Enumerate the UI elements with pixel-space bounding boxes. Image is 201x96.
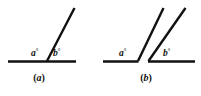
panel-a-label-b: b°	[53, 47, 61, 58]
panel-a-caption-close: )	[42, 72, 45, 84]
panel-b-ray-left	[138, 8, 164, 61]
panel-b: a° b° (b)	[103, 8, 195, 84]
panel-a: a° b° (a)	[8, 8, 76, 84]
panel-a-caption: (a)	[33, 72, 45, 84]
panel-a-label-b-degree: °	[58, 47, 61, 54]
panel-b-caption-close: )	[149, 72, 152, 84]
geometry-figure: a° b° (a) a° b° (b)	[0, 0, 201, 96]
panel-b-label-b: b°	[163, 47, 171, 58]
panel-a-label-a: a°	[31, 47, 39, 58]
panel-a-ray	[47, 8, 75, 61]
figure-canvas: a° b° (a) a° b° (b)	[0, 0, 201, 96]
panel-b-label-b-degree: °	[168, 47, 171, 54]
panel-b-caption: (b)	[140, 72, 152, 84]
panel-a-label-a-degree: °	[36, 47, 39, 54]
panel-b-label-a: a°	[119, 47, 127, 58]
panel-b-label-a-degree: °	[124, 47, 127, 54]
